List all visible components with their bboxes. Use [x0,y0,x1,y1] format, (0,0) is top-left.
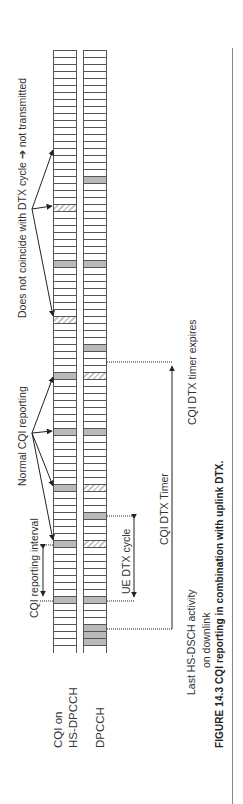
cqi-interval-arrow [40,545,53,601]
figure-caption: FIGURE 14.3 CQI reporting in combination… [214,461,225,748]
normal-cqi-label: Normal CQI reporting [16,386,28,486]
annotation-arrows [0,0,243,804]
timer-expires-label: CQI DTX timer expires [186,319,198,425]
channel-label-cqi-1: CQI on [52,712,64,748]
normal-cqi-arrows [32,377,53,540]
cqi-dtx-timer-label: CQI DTX Timer [158,473,170,545]
not-coincide-arrows [32,150,53,316]
channel-label-dpcch: DPCCH [94,707,106,748]
last-hsdsch-label-1: Last HS-DSCH activity [185,589,197,695]
not-coincide-label: Does not coincide with DTX cycle ➔ not t… [16,78,28,318]
caption-rule [232,48,233,804]
ue-dtx-cycle-label: UE DTX cycle [120,529,132,594]
last-hsdsch-label-2: on downlink [200,613,212,668]
channel-label-cqi-2: HS-DPCCH [67,687,79,748]
cqi-interval-label: CQI reporting interval [28,518,40,618]
